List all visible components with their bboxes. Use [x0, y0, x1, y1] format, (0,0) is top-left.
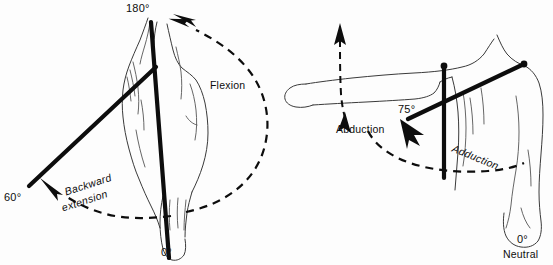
label-backward-extension-60-degrees: 60°: [4, 191, 21, 203]
label-neutral-0-degrees-left: 0°: [161, 246, 172, 258]
shoulder-rom-diagram: .body-line { fill:none; stroke:#3a3a3a; …: [0, 0, 553, 265]
right-axis-top-joint-dot: [441, 63, 448, 70]
adduction-arrowhead: [400, 119, 424, 149]
label-adduction-75-degrees: 75°: [398, 103, 415, 115]
label-neutral-0-degrees-right: 0°: [517, 233, 528, 245]
shoulder-joint-dot: [521, 61, 528, 68]
diagram-canvas: .body-line { fill:none; stroke:#3a3a3a; …: [0, 0, 553, 265]
left-backward-extension-arm-line: [29, 67, 156, 186]
label-abduction: Abduction: [336, 123, 385, 135]
label-flexion: Flexion: [210, 79, 245, 91]
label-neutral: Neutral: [503, 248, 538, 260]
label-flexion-180-degrees: 180°: [126, 2, 150, 14]
flexion-arc: [186, 30, 267, 212]
backward-extension-arrowhead: [40, 178, 63, 201]
abduction-arrow-shaft: [340, 40, 347, 124]
